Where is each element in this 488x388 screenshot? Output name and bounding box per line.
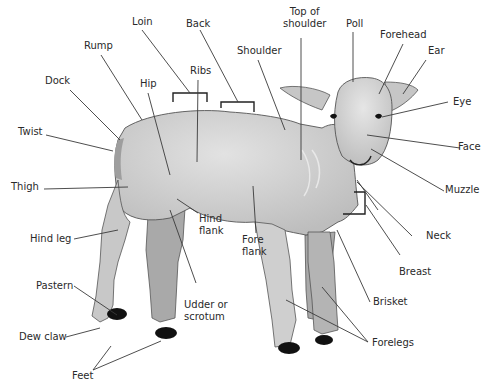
- label-breast: Breast: [399, 266, 431, 278]
- label-dew-claw: Dew claw: [19, 331, 67, 343]
- label-twist: Twist: [18, 126, 43, 138]
- label-udder-line2: scrotum: [184, 311, 228, 323]
- head: [335, 78, 392, 165]
- back-bracket: [221, 102, 254, 112]
- label-brisket: Brisket: [373, 296, 407, 308]
- label-fore-flank-line1: Fore: [242, 234, 267, 246]
- hoof-fore-far: [315, 335, 333, 345]
- label-top-of-shoulder-line2: shoulder: [283, 18, 326, 30]
- label-hind-flank: Hind flank: [199, 213, 224, 237]
- label-thigh: Thigh: [11, 181, 39, 193]
- label-feet: Feet: [72, 370, 93, 382]
- label-face: Face: [458, 141, 481, 153]
- label-ribs: Ribs: [190, 65, 211, 77]
- label-pastern: Pastern: [36, 280, 73, 292]
- label-rump: Rump: [84, 40, 113, 52]
- label-fore-flank: Fore flank: [242, 234, 267, 258]
- label-muzzle: Muzzle: [445, 184, 479, 196]
- label-fore-flank-line2: flank: [242, 246, 267, 258]
- label-neck: Neck: [426, 230, 451, 242]
- label-eye: Eye: [453, 96, 471, 108]
- label-loin: Loin: [132, 16, 153, 28]
- body: [115, 111, 358, 235]
- far-hind-leg: [146, 208, 185, 322]
- lamb-illustration: [0, 0, 488, 388]
- label-udder-or-scrotum: Udder or scrotum: [184, 299, 228, 323]
- ribs-bracket: [173, 93, 207, 102]
- label-back: Back: [186, 18, 210, 30]
- left-ear: [280, 86, 330, 110]
- label-ear: Ear: [428, 45, 445, 57]
- lamb-anatomy-diagram: Loin Back Top of shoulder Poll Forehead …: [0, 0, 488, 388]
- label-hind-flank-line2: flank: [199, 225, 224, 237]
- label-hind-leg: Hind leg: [30, 233, 71, 245]
- hoof-fore-near: [278, 342, 300, 354]
- label-udder-line1: Udder or: [184, 299, 228, 311]
- label-forehead: Forehead: [380, 29, 427, 41]
- label-dock: Dock: [45, 75, 70, 87]
- label-top-of-shoulder-line1: Top of: [283, 6, 326, 18]
- label-forelegs: Forelegs: [372, 337, 414, 349]
- label-top-of-shoulder: Top of shoulder: [283, 6, 326, 30]
- label-poll: Poll: [346, 18, 363, 30]
- label-hind-flank-line1: Hind: [199, 213, 224, 225]
- hoof-hind-far: [155, 327, 177, 339]
- label-hip: Hip: [140, 78, 157, 90]
- label-shoulder: Shoulder: [237, 45, 282, 57]
